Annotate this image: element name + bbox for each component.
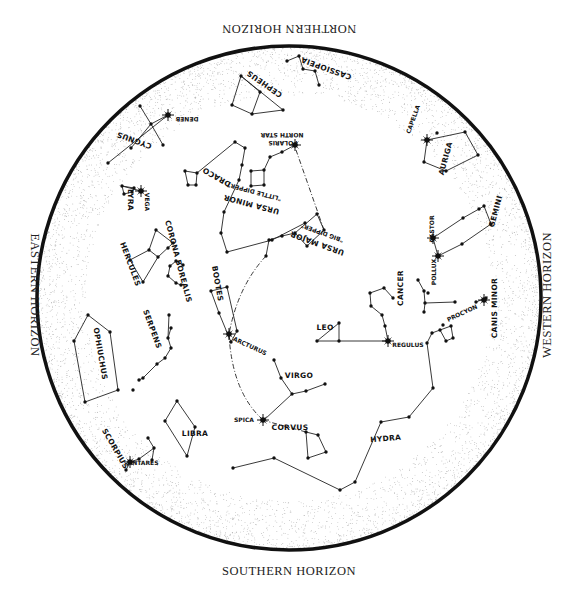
star-dot — [281, 108, 284, 111]
star-chart: CASSIOPEIACEPHEUSCYGNUSDENEBLYRAVEGADRAC… — [0, 0, 578, 589]
star-dot — [163, 419, 166, 422]
constellation-label: LEO — [316, 323, 333, 332]
northern-horizon-label: NORTHERN HORIZON — [222, 21, 357, 36]
star-dot — [149, 122, 152, 125]
constellation-label: HYDRA — [370, 433, 402, 445]
star-dot — [235, 329, 238, 332]
star-dot — [272, 358, 275, 361]
constellation-draco — [185, 142, 305, 252]
star-label: DENEB — [175, 116, 198, 123]
bright-stars — [124, 109, 490, 468]
star-dot — [304, 389, 307, 392]
star-dot — [453, 300, 456, 303]
star-dot — [416, 278, 419, 281]
star-dot — [147, 248, 150, 251]
star-dot — [290, 392, 293, 395]
star-dot — [461, 216, 464, 219]
eastern-horizon-label: EASTERN HORIZON — [27, 233, 42, 356]
star-dot — [129, 146, 132, 149]
star-dot — [368, 291, 371, 294]
star-label: ARCTURUS — [232, 335, 268, 357]
star-dot — [108, 330, 111, 333]
sky-circle — [37, 46, 541, 550]
star-dot — [131, 388, 134, 391]
constellation-label: BOOTES — [210, 265, 225, 302]
star-label: VEGA — [144, 193, 151, 212]
star-dot — [441, 323, 444, 326]
constellation-labels: CASSIOPEIACEPHEUSCYGNUSDENEBLYRAVEGADRAC… — [91, 55, 504, 471]
star-dot — [297, 54, 300, 57]
star-dot — [154, 228, 157, 231]
star-dot — [391, 296, 394, 299]
constellation-label: GEMINI — [487, 195, 504, 229]
guide-arc — [229, 256, 266, 334]
star-dot — [86, 313, 89, 316]
star-dot — [169, 326, 172, 329]
star-dot — [476, 153, 479, 156]
star-label: POLARIS — [268, 140, 297, 147]
bright-star-icon — [162, 109, 174, 121]
constellation-corvus — [306, 432, 326, 458]
star-label: CAPELLA — [404, 104, 421, 135]
constellation-label: CORVUS — [272, 423, 309, 432]
star-label: REGULUS — [392, 341, 423, 348]
bright-star-icon — [478, 294, 490, 306]
star-dot — [166, 274, 169, 277]
bright-star-icon — [257, 414, 269, 426]
constellation-virgo — [264, 360, 325, 420]
star-dot — [435, 131, 438, 134]
constellation-label: CORONA BOREALIS — [163, 219, 194, 303]
star-dot — [267, 238, 270, 241]
constellation-label: VIRGO — [285, 371, 313, 380]
star-dot — [185, 454, 188, 457]
guide-arc — [296, 150, 324, 230]
star-dot — [166, 246, 169, 249]
star-dot — [83, 400, 86, 403]
star-dot — [163, 356, 166, 359]
star-label: NORTH STAR — [260, 132, 303, 139]
star-dot — [477, 207, 480, 210]
star-dot — [168, 264, 171, 267]
star-dot — [72, 339, 75, 342]
star-dot — [209, 289, 212, 292]
star-dot — [449, 324, 452, 327]
star-dot — [451, 336, 454, 339]
star-dot — [249, 169, 252, 172]
star-dot — [258, 90, 261, 93]
constellation-label: CANIS MINOR — [490, 278, 499, 338]
constellation-label: LIBRA — [182, 429, 208, 438]
star-dot — [383, 324, 386, 327]
star-dot — [161, 143, 164, 146]
star-dot — [175, 399, 178, 402]
star-dot — [431, 386, 434, 389]
star-dot — [353, 480, 356, 483]
star-dot — [285, 59, 288, 62]
star-dot — [279, 376, 282, 379]
star-dot — [264, 254, 267, 257]
constellation-gemini — [433, 206, 491, 256]
star-dot — [116, 388, 119, 391]
star-dot — [167, 313, 170, 316]
star-dot — [407, 415, 410, 418]
star-dot — [174, 281, 177, 284]
star-dot — [323, 382, 326, 385]
star-dot — [422, 289, 425, 292]
star-dot — [438, 328, 441, 331]
star-label: PROCYON — [446, 303, 479, 323]
star-dot — [240, 163, 243, 166]
star-dot — [195, 171, 198, 174]
star-dot — [324, 450, 327, 453]
constellation-label: CASSIOPEIA — [300, 55, 353, 82]
constellation-label: CANCER — [396, 270, 405, 306]
star-dot — [194, 183, 197, 186]
constellation-label: OPHIUCHUS — [91, 327, 109, 381]
bright-star-icon — [421, 134, 433, 146]
star-dot — [233, 140, 236, 143]
star-dot — [146, 436, 149, 439]
star-dot — [301, 67, 304, 70]
star-dot — [137, 378, 140, 381]
star-dot — [317, 83, 320, 86]
star-dot — [270, 238, 273, 241]
star-dot — [315, 339, 318, 342]
star-dot — [219, 231, 222, 234]
